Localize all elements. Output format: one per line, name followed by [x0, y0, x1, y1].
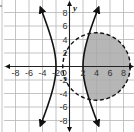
x-tick-label: 2	[80, 68, 85, 78]
x-tick-label: 4	[94, 68, 99, 78]
y-tick-label: -4	[59, 89, 67, 99]
y-tick-label: 2	[62, 48, 67, 58]
y-tick-label: -6	[59, 102, 67, 112]
x-tick-label: -4	[38, 68, 46, 78]
coordinate-plane: -8-6-4-2O24688642-2-4-6-8 y	[0, 0, 134, 132]
y-tick-label: -2	[59, 75, 67, 85]
y-tick-label: 4	[62, 35, 67, 45]
y-tick-label: -8	[59, 116, 67, 126]
corner-dot	[0, 5, 2, 7]
x-tick-label: -8	[11, 68, 19, 78]
x-tick-label: -6	[25, 68, 33, 78]
y-axis-label: y	[72, 3, 78, 13]
y-tick-label: 6	[62, 21, 67, 31]
y-tick-label: 8	[62, 8, 67, 18]
x-tick-label: 8	[121, 68, 126, 78]
axes	[6, 2, 133, 131]
x-tick-label: 6	[107, 68, 112, 78]
